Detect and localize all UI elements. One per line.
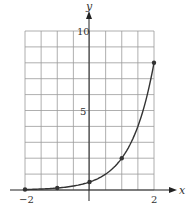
data-point bbox=[87, 180, 91, 184]
y-tick-label-10: 10 bbox=[77, 26, 90, 37]
y-axis-label: y bbox=[85, 0, 93, 13]
x-tick-label-neg2: −2 bbox=[19, 194, 34, 205]
data-point bbox=[23, 187, 27, 191]
axes bbox=[10, 11, 177, 201]
data-point bbox=[55, 186, 59, 190]
x-axis-arrow-icon bbox=[169, 187, 177, 193]
exponential-chart: x y −2 2 5 10 bbox=[0, 0, 189, 215]
data-point bbox=[152, 61, 156, 65]
x-tick-label-2: 2 bbox=[151, 194, 157, 205]
data-point bbox=[120, 156, 124, 160]
x-axis-label: x bbox=[179, 184, 186, 197]
y-tick-label-5: 5 bbox=[80, 106, 86, 117]
